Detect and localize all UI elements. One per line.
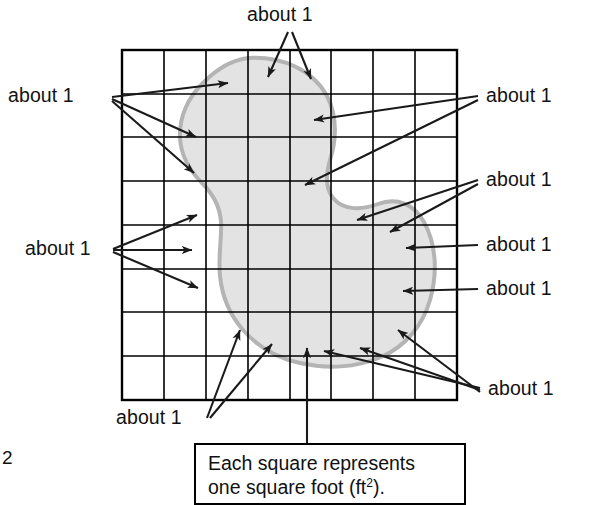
label-about-1-top: about 1 bbox=[247, 5, 313, 25]
label-about-1-right-2: about 1 bbox=[486, 170, 552, 190]
caption-line-1: Each square represents bbox=[208, 452, 454, 476]
label-about-1-right-1: about 1 bbox=[486, 86, 552, 106]
caption-box: Each square represents one square foot (… bbox=[194, 443, 466, 505]
label-about-1-right-4: about 1 bbox=[486, 279, 552, 299]
label-about-1-left-upper: about 1 bbox=[8, 86, 74, 106]
label-about-1-right-3: about 1 bbox=[486, 235, 552, 255]
caption-superscript-2: 2 bbox=[366, 475, 373, 489]
label-about-1-left-lower: about 1 bbox=[25, 239, 91, 259]
caption-line-2: one square foot (ft2). bbox=[208, 476, 454, 500]
figure-canvas: about 1 about 1 about 1 about 1 about 1 … bbox=[0, 0, 595, 505]
caption-line-2-pre: one square foot (ft bbox=[208, 476, 366, 498]
caption-line-2-post: ). bbox=[373, 476, 385, 498]
label-about-1-bottom-left: about 1 bbox=[116, 408, 182, 428]
page-number: 2 bbox=[2, 447, 13, 469]
shaded-region bbox=[180, 58, 435, 367]
label-about-1-bottom-right: about 1 bbox=[488, 379, 554, 399]
